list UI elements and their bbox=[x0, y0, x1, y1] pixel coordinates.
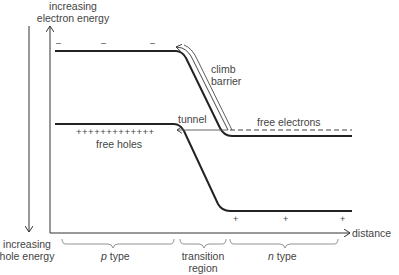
free-electrons-label: free electrons bbox=[257, 116, 321, 128]
x-axis-label: distance bbox=[352, 227, 391, 239]
region-n-suffix: type bbox=[274, 250, 297, 262]
y-up-label: increasing electron energy bbox=[33, 0, 113, 24]
plus-sign: + bbox=[283, 213, 288, 225]
plus-sign: + bbox=[233, 213, 238, 225]
region-transition-line2: region bbox=[174, 262, 232, 274]
y-up-label-line1: increasing bbox=[33, 0, 113, 12]
brace-transition-region bbox=[180, 239, 226, 248]
minus-sign: – bbox=[101, 37, 106, 49]
free-holes-label: free holes bbox=[96, 138, 142, 150]
region-transition-label: transition region bbox=[174, 250, 232, 274]
region-p-type-label: p type bbox=[101, 250, 130, 262]
climb-barrier-line1: climb bbox=[211, 63, 241, 75]
y-up-label-line2: electron energy bbox=[33, 12, 113, 24]
region-n-type-label: n type bbox=[268, 250, 297, 262]
plus-sign: + bbox=[340, 213, 345, 225]
climb-barrier-line2: barrier bbox=[211, 75, 241, 87]
holes-plus-signs: +++++++++++++ bbox=[76, 126, 155, 138]
minus-sign: – bbox=[56, 37, 61, 49]
region-p-suffix: type bbox=[107, 250, 130, 262]
minus-sign: – bbox=[150, 37, 155, 49]
climb-barrier-label: climb barrier bbox=[211, 63, 241, 87]
brace-n-type bbox=[230, 239, 338, 248]
brace-p-type bbox=[62, 239, 174, 248]
tunnel-label: tunnel bbox=[178, 113, 207, 125]
y-down-label-line2: hole energy bbox=[0, 250, 58, 262]
region-transition-line1: transition bbox=[174, 250, 232, 262]
y-down-label-line1: increasing bbox=[0, 238, 58, 250]
y-down-label: increasing hole energy bbox=[0, 238, 58, 262]
